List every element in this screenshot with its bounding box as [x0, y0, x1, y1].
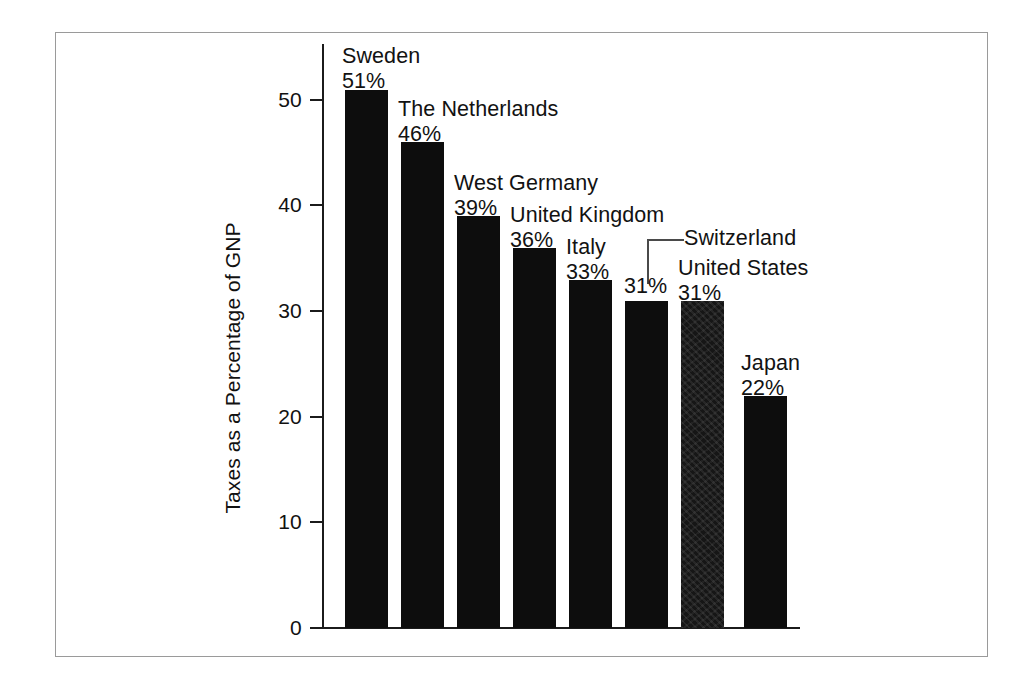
figure-canvas: Taxes as a Percentage of GNP 0 10 20 30 …: [0, 0, 1034, 700]
figure-border: [55, 32, 988, 657]
